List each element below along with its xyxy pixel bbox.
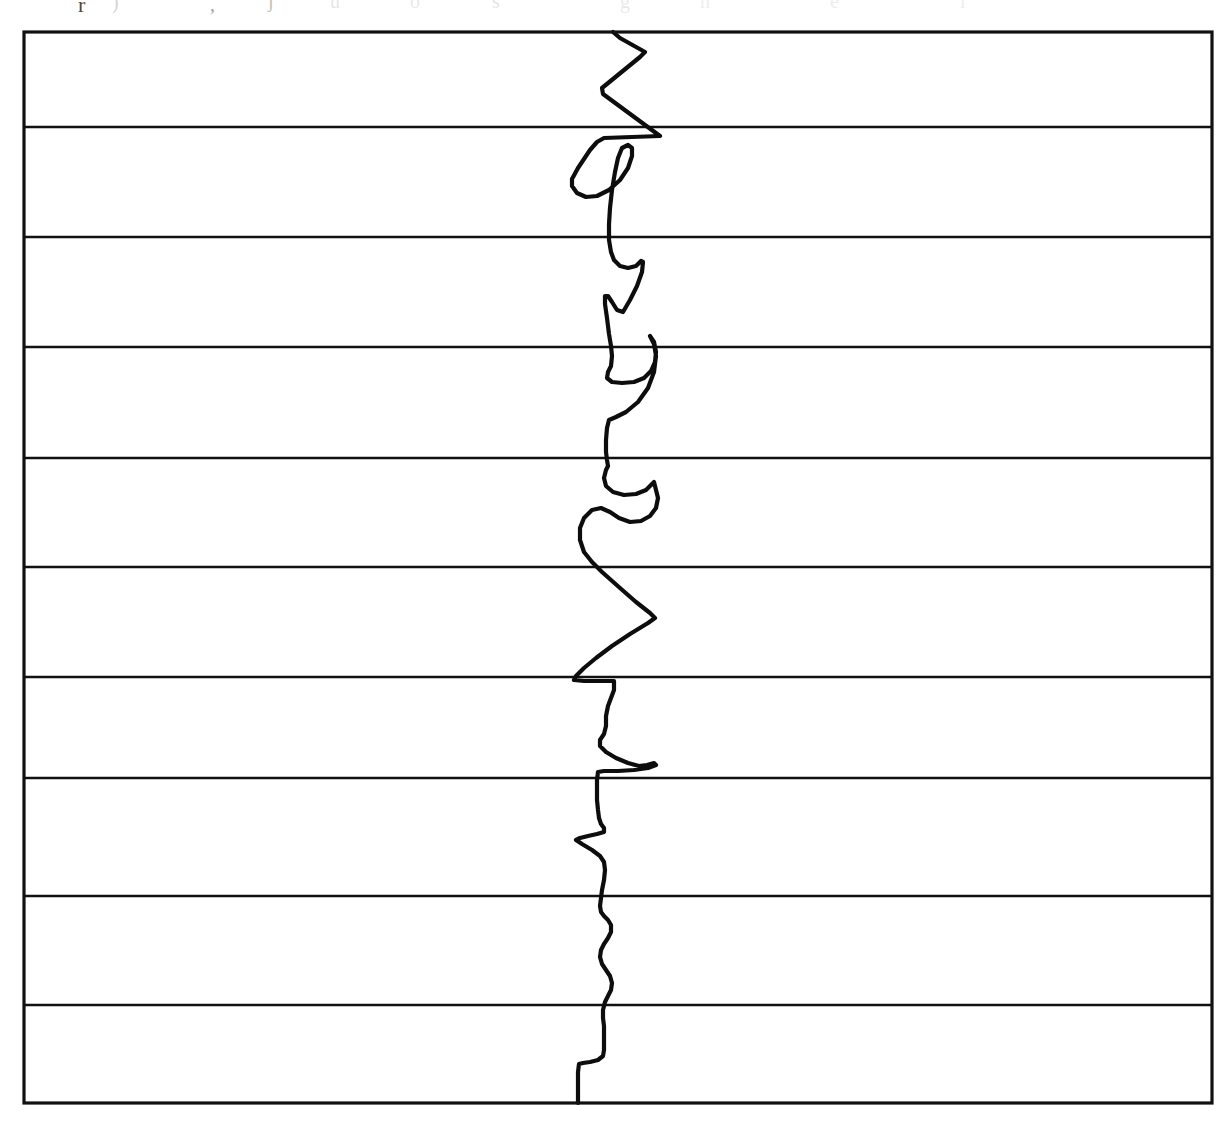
gridlines	[24, 127, 1212, 1005]
plot-svg	[0, 0, 1229, 1122]
figure-page: r),juosgnei	[0, 0, 1229, 1122]
plot-frame	[0, 0, 1229, 1122]
